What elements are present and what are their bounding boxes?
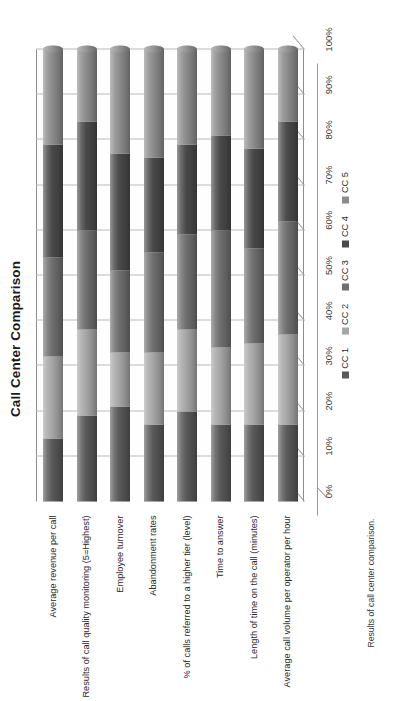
bar-segment[interactable] xyxy=(177,144,197,234)
tick-label: 40% xyxy=(323,301,334,320)
segment-shading xyxy=(244,343,264,424)
cap-shading xyxy=(77,46,97,53)
segment-shading xyxy=(110,406,130,501)
bar-segment[interactable] xyxy=(43,257,63,356)
tick-label: 0% xyxy=(323,484,334,498)
bar-row[interactable] xyxy=(278,49,298,501)
bar-segment[interactable] xyxy=(77,121,97,229)
bar-row[interactable] xyxy=(244,49,264,501)
bar-row[interactable] xyxy=(144,49,164,501)
legend-label: CC 2 xyxy=(340,303,350,324)
legend-swatch-icon xyxy=(342,240,349,247)
bar-segment[interactable] xyxy=(110,49,130,153)
bar-segment[interactable] xyxy=(77,415,97,501)
bar-segment[interactable] xyxy=(211,135,231,230)
bar-segment[interactable] xyxy=(244,148,264,247)
segment-shading xyxy=(110,49,130,153)
bar-segment[interactable] xyxy=(144,158,164,253)
bar-segment[interactable] xyxy=(278,334,298,424)
segment-shading xyxy=(77,230,97,329)
category-label: % of calls referred to a higher tier (le… xyxy=(182,515,192,701)
legend-swatch-icon xyxy=(342,196,349,203)
bar-segment[interactable] xyxy=(177,234,197,329)
bar-row[interactable] xyxy=(110,49,130,501)
bar-segment[interactable] xyxy=(244,424,264,501)
bar-segment[interactable] xyxy=(244,49,264,148)
bar-segment[interactable] xyxy=(278,49,298,121)
bar-segment[interactable] xyxy=(110,270,130,351)
plot-area: 0%10%20%30%40%50%60%70%80%90%100% Averag… xyxy=(36,49,304,501)
legend-label: CC 1 xyxy=(340,347,350,368)
bar-segment[interactable] xyxy=(177,411,197,501)
segment-shading xyxy=(77,329,97,415)
bar-segment[interactable] xyxy=(211,230,231,348)
category-label: Employee turnover xyxy=(115,515,125,701)
segment-shading xyxy=(110,352,130,406)
legend-item[interactable]: CC 2 xyxy=(340,303,350,334)
legend-item[interactable]: CC 4 xyxy=(340,216,350,247)
segment-shading xyxy=(144,424,164,501)
segment-shading xyxy=(244,148,264,247)
segment-shading xyxy=(110,270,130,351)
bar-segment[interactable] xyxy=(77,230,97,329)
bar-segment[interactable] xyxy=(278,424,298,501)
bar-segment[interactable] xyxy=(77,329,97,415)
segment-shading xyxy=(144,352,164,424)
legend-swatch-icon xyxy=(342,371,349,378)
segment-shading xyxy=(110,153,130,271)
bar-segment[interactable] xyxy=(43,356,63,437)
bar-segment[interactable] xyxy=(211,49,231,135)
cylinder-end-cap xyxy=(278,46,298,53)
tick-label: 50% xyxy=(323,255,334,274)
segment-shading xyxy=(77,49,97,121)
bar-segment[interactable] xyxy=(177,329,197,410)
bar-segment[interactable] xyxy=(77,49,97,121)
tick-label: 100% xyxy=(323,27,334,51)
legend-item[interactable]: CC 3 xyxy=(340,260,350,291)
segment-shading xyxy=(211,347,231,424)
segment-shading xyxy=(177,234,197,329)
segment-shading xyxy=(244,424,264,501)
cap-shading xyxy=(278,46,298,53)
bar-segment[interactable] xyxy=(144,252,164,351)
bar-row[interactable] xyxy=(177,49,197,501)
category-label: Length of time on the call (minutes) xyxy=(249,515,259,701)
cylinder-end-cap xyxy=(144,46,164,53)
segment-shading xyxy=(244,248,264,343)
bar-row[interactable] xyxy=(77,49,97,501)
bar-segment[interactable] xyxy=(43,438,63,501)
bar-segment[interactable] xyxy=(211,347,231,424)
bar-segment[interactable] xyxy=(43,144,63,257)
bar-segment[interactable] xyxy=(144,352,164,424)
segment-shading xyxy=(278,121,298,220)
bar-segment[interactable] xyxy=(278,121,298,220)
bar-segment[interactable] xyxy=(110,406,130,501)
floor-line xyxy=(317,63,318,515)
segment-shading xyxy=(43,438,63,501)
bar-row[interactable] xyxy=(211,49,231,501)
legend-item[interactable]: CC 1 xyxy=(340,347,350,378)
bar-segment[interactable] xyxy=(144,49,164,157)
segment-shading xyxy=(177,411,197,501)
bar-segment[interactable] xyxy=(43,49,63,144)
bar-segment[interactable] xyxy=(278,221,298,334)
legend-label: CC 3 xyxy=(340,260,350,281)
bar-segment[interactable] xyxy=(177,49,197,144)
segment-shading xyxy=(43,356,63,437)
segment-shading xyxy=(177,144,197,234)
bar-segment[interactable] xyxy=(110,153,130,271)
bar-segment[interactable] xyxy=(244,248,264,343)
segment-shading xyxy=(43,144,63,257)
category-label: Abandonment rates xyxy=(148,515,158,701)
bar-segment[interactable] xyxy=(144,424,164,501)
segment-shading xyxy=(278,49,298,121)
segment-shading xyxy=(244,49,264,148)
category-label: Average revenue per call xyxy=(48,515,58,701)
bar-segment[interactable] xyxy=(110,352,130,406)
legend-item[interactable]: CC 5 xyxy=(340,172,350,203)
bar-segment[interactable] xyxy=(244,343,264,424)
bar-row[interactable] xyxy=(43,49,63,501)
legend-label: CC 5 xyxy=(340,172,350,193)
bar-segment[interactable] xyxy=(211,424,231,501)
